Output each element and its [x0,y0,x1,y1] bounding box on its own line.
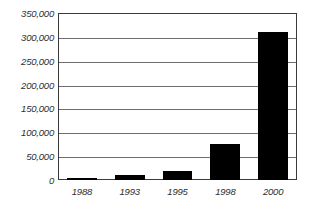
bar-1993 [115,175,145,180]
bar-chart-figure: 050,000100,000150,000200,000250,000300,0… [0,0,309,214]
x-axis-tick-label-1993: 1993 [120,186,140,197]
x-axis-tick-label-1998: 1998 [215,186,235,197]
bar-slot [249,13,297,180]
x-axis-tick-label-2000: 2000 [263,186,283,197]
y-axis-tick-label: 0 [0,175,54,186]
bar-2000 [258,32,288,180]
bars-layer [58,13,297,180]
y-axis-tick-labels: 050,000100,000150,000200,000250,000300,0… [0,13,54,180]
x-axis-tick-label-1995: 1995 [167,186,187,197]
x-axis-tick-labels: 19881993199519982000 [58,186,297,204]
y-axis-tick-label: 250,000 [0,55,54,66]
x-axis-tick-label-1988: 1988 [72,186,92,197]
bar-slot [58,13,106,180]
bar-1988 [67,178,97,180]
y-axis-tick-label: 200,000 [0,79,54,90]
bar-slot [201,13,249,180]
bar-1998 [210,144,240,180]
bar-1995 [163,171,193,180]
y-axis-tick-label: 350,000 [0,8,54,19]
y-axis-tick-label: 150,000 [0,103,54,114]
y-axis-tick-label: 50,000 [0,151,54,162]
y-axis-tick-label: 300,000 [0,31,54,42]
y-axis-tick-label: 100,000 [0,127,54,138]
bar-slot [154,13,202,180]
bar-slot [106,13,154,180]
